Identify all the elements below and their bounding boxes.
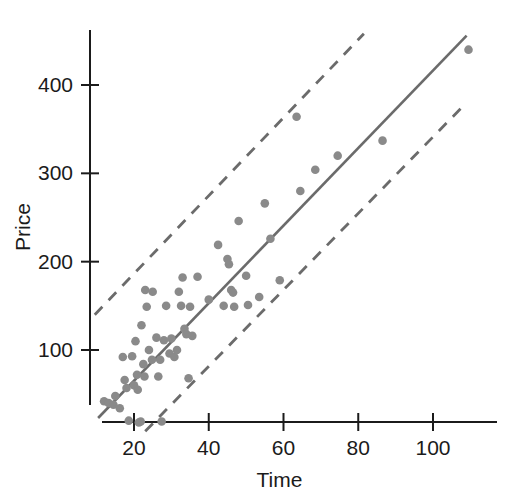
data-point: [275, 276, 284, 285]
data-point: [255, 293, 264, 302]
data-point: [111, 392, 120, 401]
data-point: [145, 346, 154, 355]
data-point: [311, 166, 320, 175]
data-point: [140, 372, 149, 381]
data-point: [242, 272, 251, 281]
plot-area: [0, 0, 515, 500]
data-point: [184, 374, 193, 383]
data-point: [162, 302, 171, 311]
data-point: [156, 355, 165, 364]
upper-confidence-band-line: [95, 34, 364, 315]
data-point: [175, 287, 184, 296]
data-point: [188, 332, 197, 341]
data-point: [136, 417, 145, 426]
data-point: [157, 417, 166, 426]
data-point: [148, 355, 157, 364]
data-point: [118, 353, 127, 362]
data-point: [378, 136, 387, 145]
y-tick-label: 300: [0, 161, 73, 185]
data-point: [120, 376, 129, 385]
data-point: [266, 234, 275, 243]
data-point: [229, 288, 238, 297]
x-tick-label: 60: [272, 436, 295, 460]
lower-confidence-band-line: [145, 104, 465, 431]
data-point: [154, 372, 163, 381]
data-point: [115, 404, 124, 413]
x-tick-label: 100: [415, 436, 450, 460]
y-tick-label: 400: [0, 73, 73, 97]
data-point: [133, 385, 142, 394]
data-point: [139, 360, 148, 369]
data-point: [230, 302, 239, 311]
data-point: [128, 352, 137, 361]
data-point: [124, 416, 133, 425]
data-point: [141, 286, 150, 295]
x-tick-label: 80: [347, 436, 370, 460]
y-axis-title: Price: [11, 192, 35, 262]
data-point: [296, 187, 305, 196]
data-point: [244, 301, 253, 310]
x-tick-label: 40: [197, 436, 220, 460]
data-point: [225, 260, 234, 269]
data-point: [142, 302, 151, 311]
data-point: [464, 45, 473, 54]
data-point: [160, 336, 169, 345]
data-point: [234, 217, 243, 226]
data-point: [148, 287, 157, 296]
data-point: [122, 384, 131, 393]
data-point: [214, 241, 223, 250]
y-tick-label: 100: [0, 338, 73, 362]
data-point: [152, 333, 161, 342]
data-point: [193, 272, 202, 281]
data-point: [133, 370, 142, 379]
x-axis-title: Time: [257, 468, 303, 492]
data-point: [173, 346, 182, 355]
data-point: [178, 273, 187, 282]
data-point: [219, 302, 228, 311]
scatter-chart: 20406080100 100200300400 Time Price: [0, 0, 515, 500]
data-point: [137, 321, 146, 330]
x-tick-label: 20: [122, 436, 145, 460]
data-point: [333, 151, 342, 160]
data-point: [261, 199, 270, 208]
data-point: [177, 302, 186, 311]
fit-lines-group: [95, 34, 467, 431]
data-point: [131, 337, 140, 346]
data-point: [292, 113, 301, 122]
data-point: [204, 295, 213, 304]
data-points-group: [100, 45, 473, 426]
data-point: [167, 334, 176, 343]
data-point: [186, 302, 195, 311]
